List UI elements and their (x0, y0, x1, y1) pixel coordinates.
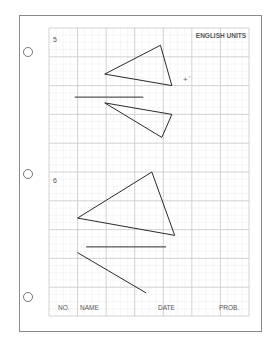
footer-no-label: NO. (58, 304, 70, 311)
footer-prob-label: PROB. (219, 304, 239, 311)
cross-tick: ' (189, 75, 190, 82)
punch-hole-icon (24, 293, 33, 302)
cross-symbol: + (183, 75, 188, 84)
page-border (20, 16, 262, 332)
footer-name-label: NAME (80, 304, 99, 311)
punch-hole-icon (24, 170, 33, 179)
header-label: ENGLISH UNITS (196, 32, 247, 39)
problem-number-5: 5 (53, 36, 57, 43)
punch-hole-icon (24, 48, 33, 57)
footer-date-label: DATE (158, 304, 176, 311)
worksheet-sheet: ENGLISH UNITS 5 6 + ' NO. NAME DATE PROB… (0, 0, 276, 345)
problem-number-6: 6 (53, 177, 57, 184)
